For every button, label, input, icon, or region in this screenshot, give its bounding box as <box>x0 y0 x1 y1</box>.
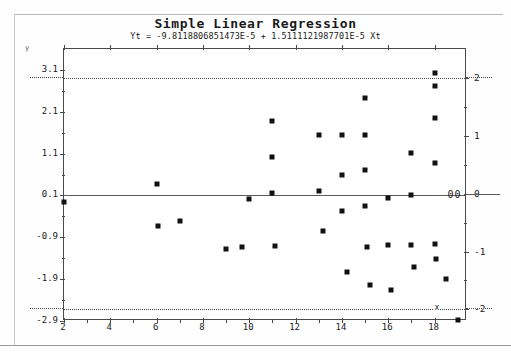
y-axis-tick-label: -0.9 <box>18 231 58 241</box>
x-minor-tick <box>87 320 88 323</box>
data-point <box>240 244 245 249</box>
data-point <box>365 244 370 249</box>
data-point <box>409 242 414 247</box>
left-divider <box>14 14 15 346</box>
data-point <box>155 223 160 228</box>
data-point <box>270 154 275 159</box>
data-point <box>321 229 326 234</box>
y-axis-tick-label: 2.1 <box>18 106 58 116</box>
x-minor-tick <box>226 320 227 323</box>
data-point <box>363 203 368 208</box>
y-axis-label: y <box>25 44 29 52</box>
data-point <box>409 150 414 155</box>
data-point <box>316 132 321 137</box>
y-axis-tick-label: 0.1 <box>18 189 58 199</box>
data-point <box>409 192 414 197</box>
upper-limit-line-extension-right <box>466 77 492 78</box>
x-axis-tick-label: 18 <box>419 322 449 332</box>
y-tick-left <box>60 70 65 71</box>
data-point <box>344 269 349 274</box>
data-point <box>411 264 416 269</box>
y-tick-right <box>464 252 469 253</box>
x-axis-tick-label: 4 <box>94 322 124 332</box>
y-minor-tick-left <box>62 300 65 301</box>
lower-limit-line-extension-right <box>466 308 492 309</box>
bottom-divider <box>0 345 511 346</box>
data-point <box>270 190 275 195</box>
data-point <box>388 287 393 292</box>
x-minor-tick <box>133 320 134 323</box>
data-point <box>224 247 229 252</box>
x-axis-tick-label: 6 <box>141 322 171 332</box>
y-minor-tick-right <box>464 165 467 166</box>
data-point <box>444 277 449 282</box>
data-point <box>270 118 275 123</box>
regression-equation: Yt = -9.8118806851473E-5 + 1.51111219877… <box>0 31 511 41</box>
top-divider <box>14 14 503 15</box>
y-tick-left <box>60 112 65 113</box>
y-minor-tick-right <box>464 280 467 281</box>
y-axis-tick-label: 3.1 <box>18 64 58 74</box>
upper-limit-line-extension-left <box>30 77 63 78</box>
x-minor-tick <box>365 320 366 323</box>
y-minor-tick-right <box>464 107 467 108</box>
x-axis-tick-label: 12 <box>280 322 310 332</box>
data-point <box>62 199 67 204</box>
data-point <box>432 241 437 246</box>
y-minor-tick-right <box>464 223 467 224</box>
data-point <box>339 173 344 178</box>
data-point <box>272 243 277 248</box>
y-axis-tick-label: 1.1 <box>18 148 58 158</box>
x-tick-top <box>110 45 111 50</box>
x-minor-tick <box>272 320 273 323</box>
y-minor-tick-left <box>62 175 65 176</box>
x-axis-label: x <box>434 303 441 312</box>
right-y-axis-tick-label: 0 <box>474 187 496 198</box>
x-tick-top <box>435 45 436 50</box>
data-point <box>433 257 438 262</box>
right-y-axis-tick-label: -1 <box>474 245 496 256</box>
data-point <box>386 195 391 200</box>
x-minor-tick <box>319 320 320 323</box>
x-tick-top <box>203 45 204 50</box>
x-minor-tick <box>180 320 181 323</box>
upper-limit-line <box>64 78 465 79</box>
y-tick-left <box>60 237 65 238</box>
y-tick-left <box>60 279 65 280</box>
data-point <box>316 189 321 194</box>
x-tick-top <box>342 45 343 50</box>
data-point <box>339 132 344 137</box>
data-point <box>339 209 344 214</box>
data-point <box>432 116 437 121</box>
data-point <box>154 181 159 186</box>
lower-limit-line <box>64 309 465 310</box>
data-point <box>386 242 391 247</box>
data-point <box>367 283 372 288</box>
x-axis-tick-label: 10 <box>233 322 263 332</box>
x-axis-tick-label: 2 <box>48 322 78 332</box>
regression-line-extension <box>466 194 500 195</box>
x-axis-tick-label: 16 <box>372 322 402 332</box>
data-point <box>432 160 437 165</box>
plot-area <box>63 48 466 320</box>
x-tick-top <box>64 45 65 50</box>
data-point <box>432 71 437 76</box>
y-tick-right <box>464 136 469 137</box>
data-point <box>363 167 368 172</box>
data-point <box>363 132 368 137</box>
y-tick-left <box>60 154 65 155</box>
zero-marker-annotation: 00 <box>447 189 461 200</box>
x-minor-tick <box>411 320 412 323</box>
y-minor-tick-left <box>62 91 65 92</box>
x-tick-top <box>157 45 158 50</box>
x-tick-top <box>388 45 389 50</box>
regression-line <box>64 195 465 196</box>
chart-title: Simple Linear Regression <box>0 16 511 31</box>
data-point <box>363 96 368 101</box>
y-minor-tick-left <box>62 216 65 217</box>
data-point <box>455 318 460 323</box>
lower-limit-line-extension-left <box>30 308 63 309</box>
x-axis-tick-label: 14 <box>326 322 356 332</box>
x-axis-tick-label: 8 <box>187 322 217 332</box>
x-tick-top <box>296 45 297 50</box>
